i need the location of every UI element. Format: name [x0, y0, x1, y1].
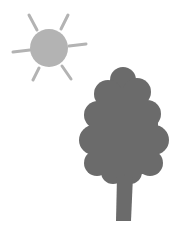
tree-trunk [116, 176, 133, 221]
illustration [0, 0, 183, 235]
